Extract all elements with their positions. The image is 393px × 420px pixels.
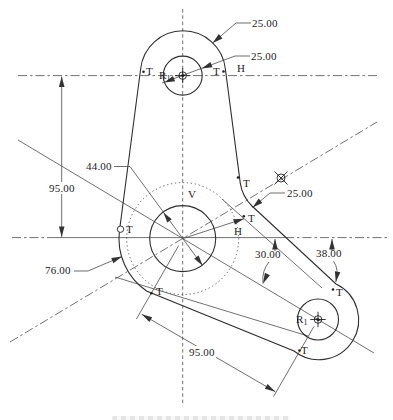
arm-dim-extension-left: [136, 246, 178, 320]
left-tangent-point-circle: [117, 226, 123, 232]
radius-point-label-top: R1: [159, 69, 171, 85]
dim-top-hole-diameter: 25.00: [251, 50, 277, 62]
dim-tangent-angle: 38.00: [316, 247, 342, 259]
arm-dim-extension-right: [274, 326, 315, 396]
dim-boss-diameter: 76.00: [45, 264, 71, 276]
dim-center-hole-diameter: 44.00: [86, 160, 112, 172]
vertical-axis-label: V: [188, 188, 196, 200]
tangent-label-lobe-top: T: [336, 286, 343, 298]
tangent-label-fillet: T: [243, 177, 250, 189]
top-hole-center-target: [175, 68, 190, 83]
horizontal-axis-label-top: H: [237, 62, 245, 74]
drawing-canvas: 25.00 25.00 25.00 44.00 95.00 76.00 30.0…: [0, 0, 393, 420]
horizontal-axis-label-mid: H: [234, 225, 242, 237]
dim-vertical-center-distance: 95.00: [48, 182, 76, 194]
dim-centerline-angle: 30.00: [255, 248, 281, 260]
fillet-center-target: [275, 172, 288, 185]
part-outline: [119, 31, 359, 360]
tangent-point-dots: [142, 70, 334, 352]
cropped-caption-remnant: [112, 416, 290, 420]
upper-tangent-construction-line: [222, 199, 322, 288]
diagonal-centerline: [10, 122, 377, 342]
tangent-label-mid-right: T: [248, 212, 255, 224]
tangent-label-left-center: T: [126, 223, 133, 235]
point-markers: [117, 68, 334, 352]
dimension-arrows: [59, 34, 340, 394]
bottom-hole-center-target: [310, 312, 325, 327]
dim-fillet-radius: 25.00: [287, 187, 313, 199]
lever-outline-path: [119, 31, 359, 360]
tangent-label-bottom-left: T: [156, 285, 163, 297]
dim-top-lobe-radius: 25.00: [252, 17, 278, 29]
dim-arm-center-distance: 95.00: [188, 346, 216, 358]
tangent-label-top-right: T: [213, 65, 220, 77]
leader-fillet-25: [253, 193, 286, 208]
tangent-label-top-left: T: [146, 65, 153, 77]
radius-point-label-bottom: R1: [296, 313, 308, 329]
tangent-label-lobe-bottom: T: [301, 344, 308, 356]
